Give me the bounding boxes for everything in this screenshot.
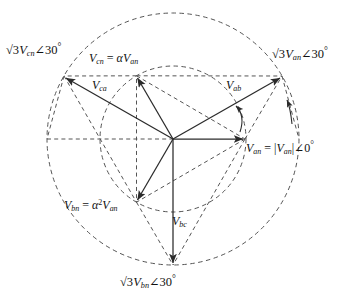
label-van-equation: Van = |Van|∠0° <box>246 141 314 156</box>
outer-left-connector-dashed <box>47 76 64 139</box>
radical-glyph: √3 <box>120 275 133 289</box>
label-vbn-equation: Vbn = α2Van <box>64 199 118 213</box>
arc-30deg-indicator-icon <box>236 106 242 132</box>
label-sqrt3-van: √3Van∠30° <box>272 46 328 62</box>
label-sqrt3-vcn: √3Vcn∠30° <box>6 42 61 58</box>
label-vab: Vab <box>226 79 241 93</box>
outer-right-connector-dashed <box>282 76 299 139</box>
label-vcn-equation: Vcn = αVan <box>89 52 138 66</box>
radical-glyph: √3 <box>6 43 19 57</box>
vab-parallelogram-dashed <box>137 76 283 139</box>
vbc-parallelogram-dashed <box>137 139 246 265</box>
label-vbc: Vbc <box>172 215 187 229</box>
radical-glyph: √3 <box>272 47 285 61</box>
label-vca: Vca <box>92 79 107 93</box>
label-sqrt3-vbn: √3Vbn∠30° <box>120 274 176 290</box>
phasor-diagram-figure: √3Vcn∠30° Vcn = αVan √3Van∠30° Vca Vab V… <box>0 0 343 300</box>
